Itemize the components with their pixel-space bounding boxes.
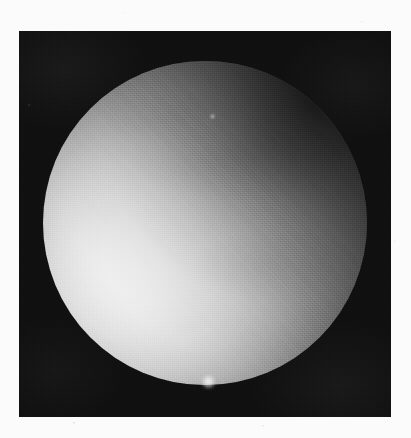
disc-fleck <box>210 114 215 119</box>
plate-root <box>0 0 411 438</box>
planetary-disc <box>43 61 367 385</box>
image-panel <box>19 31 391 417</box>
limb-bright-spot <box>201 374 216 389</box>
disc-limb-edge <box>43 61 367 385</box>
